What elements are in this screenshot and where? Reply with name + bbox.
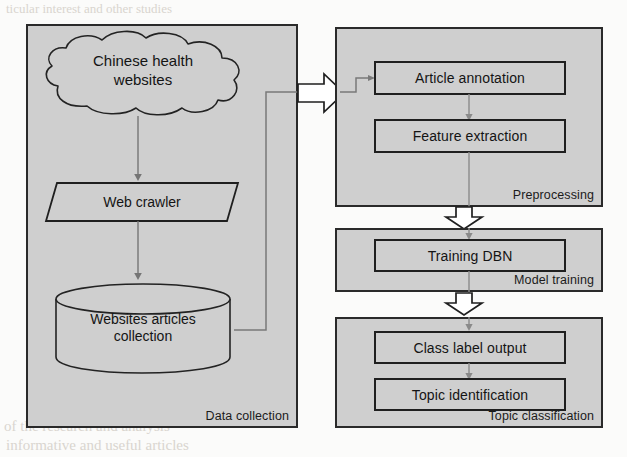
node-label-feature-extraction: Feature extraction xyxy=(413,128,528,144)
edge-training-dbn-down xyxy=(463,271,475,293)
block-arrow-down-training-to-classification xyxy=(444,291,484,317)
node-training-dbn[interactable]: Training DBN xyxy=(374,239,566,272)
edge-cloud-to-web-crawler xyxy=(132,116,144,186)
panel-label-preprocessing: Preprocessing xyxy=(513,188,594,202)
node-web-crawler[interactable]: Web crawler xyxy=(44,181,240,223)
node-label-web-crawler: Web crawler xyxy=(103,194,181,210)
node-label-class-label-output: Class label output xyxy=(413,340,526,356)
background-bleed-text-1: ticular interest and other studies xyxy=(6,1,172,17)
edge-articles-db-to-preprocessing xyxy=(228,86,308,336)
background-bleed-text-3: informative and useful articles xyxy=(6,437,189,454)
panel-label-data-collection: Data collection xyxy=(206,409,290,423)
cloud-label-line1: Chinese health xyxy=(93,52,193,69)
cloud-label-line2: websites xyxy=(114,71,172,88)
node-label-article-annotation: Article annotation xyxy=(415,70,525,86)
panel-label-topic-classification: Topic classification xyxy=(488,409,594,423)
node-websites-articles-collection[interactable]: Websites articles collection xyxy=(54,281,232,375)
node-feature-extraction[interactable]: Feature extraction xyxy=(374,119,566,153)
diagram-canvas: ticular interest and other studies of th… xyxy=(0,0,627,457)
cylinder-label-line2: collection xyxy=(114,328,172,344)
panel-label-model-training: Model training xyxy=(514,273,594,287)
node-label-websites-articles-collection: Websites articles collection xyxy=(90,311,196,346)
node-article-annotation[interactable]: Article annotation xyxy=(374,61,566,95)
edge-feature-extraction-down xyxy=(463,152,475,210)
node-label-topic-identification: Topic identification xyxy=(412,387,528,403)
node-topic-identification[interactable]: Topic identification xyxy=(374,378,566,411)
cylinder-label-line1: Websites articles xyxy=(90,311,196,327)
edge-web-crawler-to-articles-db xyxy=(132,221,144,285)
node-label-training-dbn: Training DBN xyxy=(428,248,513,264)
node-label-chinese-health-websites: Chinese health websites xyxy=(93,51,193,98)
node-class-label-output[interactable]: Class label output xyxy=(374,331,566,364)
node-chinese-health-websites[interactable]: Chinese health websites xyxy=(32,28,254,120)
